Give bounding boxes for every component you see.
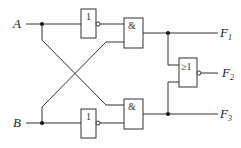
output-label-f1: F1: [219, 25, 232, 42]
nor-gate-bubble: [197, 71, 201, 75]
and-gate-bottom-symbol: &: [128, 101, 136, 112]
logic-circuit-diagram: A B 1 & 1 & ≥1 F1 F2 F3: [0, 0, 241, 148]
not-gate-bottom-bubble: [96, 121, 100, 125]
output-label-f2: F2: [221, 65, 234, 82]
not-gate-top-symbol: 1: [86, 11, 91, 22]
wire-nor-in-top: [168, 33, 179, 65]
and-gate-top-symbol: &: [128, 20, 136, 31]
nor-gate-symbol: ≥1: [181, 61, 192, 72]
output-label-f3: F3: [219, 106, 232, 123]
input-label-a: A: [12, 16, 21, 31]
not-gate-bottom-symbol: 1: [86, 111, 91, 122]
input-label-b: B: [13, 115, 21, 130]
not-gate-top-bubble: [96, 22, 100, 26]
wire-nor-in-bottom: [168, 82, 179, 114]
